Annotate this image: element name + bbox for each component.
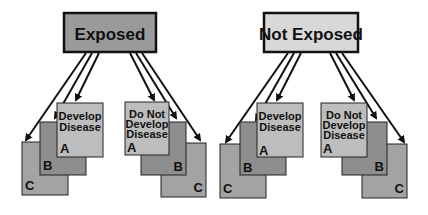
card-a-text-line: Disease xyxy=(259,121,301,133)
card-b-label: B xyxy=(174,159,183,174)
card-c-label: C xyxy=(395,181,405,196)
exposure-diagram: Exposed C B Develop Disease A C B Do Not… xyxy=(0,0,428,215)
card-b-label: B xyxy=(43,158,52,173)
stack-develop-disease: C B Develop Disease A xyxy=(220,103,303,198)
card-a-label: A xyxy=(127,140,137,155)
card-a-text-line: Disease xyxy=(323,129,365,141)
card-a-text-line: Disease xyxy=(59,121,101,133)
card-c-label: C xyxy=(25,178,35,193)
card-c-label: C xyxy=(194,180,204,195)
card-a-label: A xyxy=(259,143,269,158)
exposed-title: Exposed xyxy=(75,25,146,44)
card-a-text-line: Disease xyxy=(126,128,168,140)
group-not-exposed: Not Exposed C B Develop Disease A C B Do… xyxy=(220,13,407,198)
stack-develop-disease: C B Develop Disease A xyxy=(22,103,103,195)
stack-do-not-develop-disease: C B Do Not Develop Disease A xyxy=(321,103,407,198)
card-a-label: A xyxy=(323,141,333,156)
stack-do-not-develop-disease: C B Do Not Develop Disease A xyxy=(125,102,206,197)
card-c-label: C xyxy=(223,181,233,196)
card-b-label: B xyxy=(375,159,384,174)
card-a-label: A xyxy=(60,141,70,156)
card-b-label: B xyxy=(243,160,252,175)
group-exposed: Exposed C B Develop Disease A C B Do Not… xyxy=(22,13,206,197)
not-exposed-title: Not Exposed xyxy=(259,25,363,44)
